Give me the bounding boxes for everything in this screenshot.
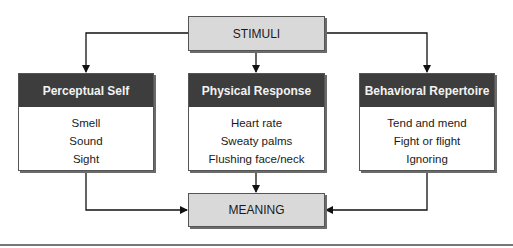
bottom-divider: [0, 244, 513, 246]
list-item: Smell: [72, 114, 101, 132]
stimuli-box: STIMULI: [188, 16, 325, 51]
list-item: Sight: [73, 150, 99, 168]
behavioral-repertoire-box: Behavioral Repertoire Tend and mend Figh…: [359, 73, 495, 171]
list-item: Tend and mend: [387, 114, 466, 132]
stimuli-label: STIMULI: [233, 27, 280, 41]
meaning-box: MEANING: [188, 193, 325, 227]
box-header: Behavioral Repertoire: [360, 74, 494, 107]
list-item: Sweaty palms: [221, 132, 293, 150]
box-header: Perceptual Self: [19, 74, 153, 107]
list-item: Heart rate: [231, 114, 282, 132]
list-item: Ignoring: [406, 150, 448, 168]
list-item: Flushing face/neck: [209, 150, 305, 168]
meaning-label: MEANING: [228, 203, 284, 217]
box-header: Physical Response: [189, 74, 324, 107]
list-item: Sound: [69, 132, 102, 150]
list-item: Fight or flight: [394, 132, 460, 150]
perceptual-self-box: Perceptual Self Smell Sound Sight: [18, 73, 154, 171]
physical-response-box: Physical Response Heart rate Sweaty palm…: [188, 73, 325, 171]
